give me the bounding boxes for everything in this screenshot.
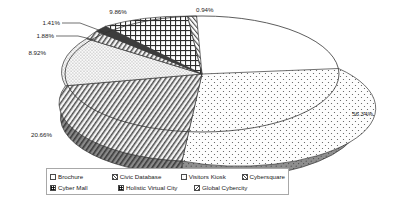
slice-brochure — [182, 69, 376, 167]
label-0-94: 0.94% — [196, 6, 214, 13]
legend-label-holistic-virtual-city: Holistic Virtual City — [126, 184, 177, 191]
legend-item-brochure[interactable]: Brochure — [50, 171, 112, 182]
legend-item-global-cybercity[interactable]: Global Cybercity — [194, 182, 247, 193]
legend-label-visitors-kiosk: Visitors Kiosk — [189, 173, 226, 180]
label-56-34: 56.34% — [352, 110, 373, 117]
legend-swatch-fine-dots — [181, 174, 187, 180]
chart-legend: Brochure Civic Database Visitors Kiosk C… — [46, 168, 289, 195]
legend-label-cybersquare: Cybersquare — [250, 173, 285, 180]
pie-top-face — [59, 16, 376, 166]
legend-swatch-diagonal-thin — [194, 185, 200, 191]
legend-swatch-cross-grid — [118, 185, 124, 191]
label-1-88: 1.88% — [36, 32, 54, 39]
legend-item-civic-database[interactable]: Civic Database — [112, 171, 181, 182]
label-1-41: 1.41% — [42, 19, 60, 26]
legend-label-cyber-mall: Cyber Mall — [58, 184, 88, 191]
label-8-92: 8.92% — [28, 49, 46, 56]
legend-swatch-sparse-dots — [50, 174, 56, 180]
legend-row-2: Cyber Mall Holistic Virtual City Global … — [50, 182, 285, 193]
legend-label-brochure: Brochure — [58, 173, 83, 180]
legend-swatch-diagonal-lines-2 — [242, 174, 248, 180]
legend-swatch-diagonal-lines — [112, 174, 118, 180]
legend-label-global-cybercity: Global Cybercity — [202, 184, 247, 191]
label-20-66: 20.66% — [31, 131, 52, 138]
label-9-86: 9.86% — [109, 8, 127, 15]
legend-item-cyber-mall[interactable]: Cyber Mall — [50, 182, 118, 193]
legend-label-civic-database: Civic Database — [120, 173, 162, 180]
legend-item-visitors-kiosk[interactable]: Visitors Kiosk — [181, 171, 242, 182]
legend-item-cybersquare[interactable]: Cybersquare — [242, 171, 285, 182]
legend-row-1: Brochure Civic Database Visitors Kiosk C… — [50, 171, 285, 182]
legend-item-holistic-virtual-city[interactable]: Holistic Virtual City — [118, 182, 194, 193]
legend-swatch-solid-dark — [50, 185, 56, 191]
